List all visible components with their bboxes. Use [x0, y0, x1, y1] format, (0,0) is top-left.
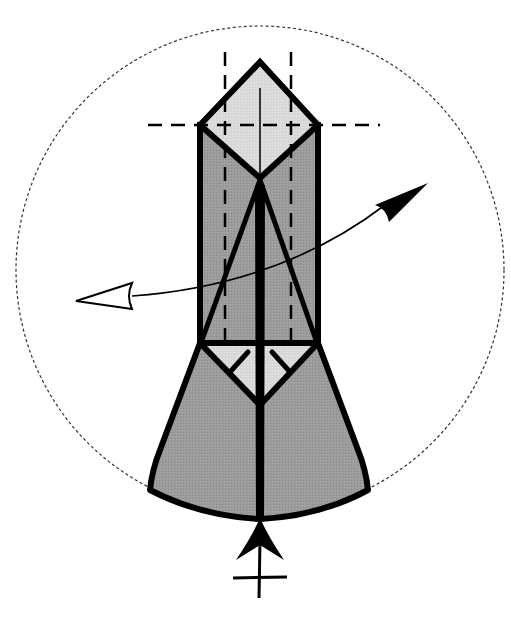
diagram-canvas: [0, 0, 511, 621]
arrowhead-filled-icon: [375, 183, 428, 222]
origami-diagram: [0, 0, 511, 621]
pivot-symbol: [233, 518, 287, 598]
arrowhead-open-icon: [76, 283, 132, 309]
